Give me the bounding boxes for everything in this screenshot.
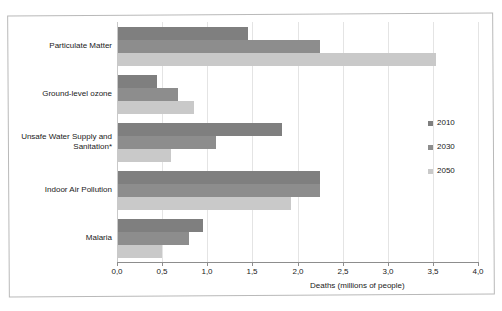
x-axis-tick — [343, 262, 344, 266]
x-axis-tick — [117, 262, 118, 266]
x-tick-label: 2,5 — [328, 267, 358, 276]
x-tick-label: 1,5 — [237, 267, 267, 276]
bar-2030-malaria — [117, 232, 189, 245]
x-tick-label: 3,5 — [418, 267, 448, 276]
bar-2030-ground-level-ozone — [117, 88, 178, 101]
legend-label: 2010 — [437, 118, 455, 127]
bar-2010-indoor-air-pollution — [117, 171, 320, 184]
plot-area — [117, 22, 478, 262]
x-axis-tick — [433, 262, 434, 266]
legend-swatch-icon — [428, 169, 433, 174]
bar-group — [117, 171, 478, 210]
category-label: Malaria — [4, 233, 112, 243]
category-label: Indoor Air Pollution — [4, 185, 112, 195]
legend-item-2050[interactable]: 2050 — [428, 166, 488, 190]
bar-2010-unsafe-water-supply-and-sanitation — [117, 123, 282, 136]
legend-label: 2050 — [437, 166, 455, 175]
category-labels: Particulate MatterGround-level ozoneUnsa… — [0, 22, 112, 262]
bar-2050-ground-level-ozone — [117, 101, 194, 114]
bar-2050-unsafe-water-supply-and-sanitation — [117, 149, 171, 162]
legend-label: 2030 — [437, 142, 455, 151]
bar-2010-particulate-matter — [117, 27, 248, 40]
bar-2050-indoor-air-pollution — [117, 197, 291, 210]
x-tick-label: 2,0 — [283, 267, 313, 276]
bar-2050-malaria — [117, 245, 162, 258]
chart-legend: 201020302050 — [428, 118, 488, 190]
bar-group — [117, 75, 478, 114]
legend-item-2010[interactable]: 2010 — [428, 118, 488, 142]
bar-group — [117, 27, 478, 66]
x-tick-label: 0,0 — [102, 267, 132, 276]
bar-2030-indoor-air-pollution — [117, 184, 320, 197]
bar-group — [117, 123, 478, 162]
bar-2030-unsafe-water-supply-and-sanitation — [117, 136, 216, 149]
legend-swatch-icon — [428, 145, 433, 150]
legend-swatch-icon — [428, 121, 433, 126]
x-axis-tick — [252, 262, 253, 266]
category-label: Ground-level ozone — [4, 89, 112, 99]
x-tick-label: 3,0 — [373, 267, 403, 276]
x-tick-label: 1,0 — [192, 267, 222, 276]
legend-item-2030[interactable]: 2030 — [428, 142, 488, 166]
x-axis-title: Deaths (millions of people) — [310, 281, 405, 290]
x-axis-tick — [388, 262, 389, 266]
bar-2010-malaria — [117, 219, 203, 232]
bar-group — [117, 219, 478, 258]
x-tick-label: 0,5 — [147, 267, 177, 276]
y-axis-line — [117, 22, 118, 263]
x-axis-tick — [207, 262, 208, 266]
bar-chart: Particulate MatterGround-level ozoneUnsa… — [0, 0, 502, 311]
x-axis-tick — [478, 262, 479, 266]
category-label: Unsafe Water Supply and Sanitation* — [4, 132, 112, 152]
x-tick-label: 4,0 — [463, 267, 493, 276]
category-label: Particulate Matter — [4, 41, 112, 51]
bar-2050-particulate-matter — [117, 53, 436, 66]
x-axis-tick — [298, 262, 299, 266]
bar-2010-ground-level-ozone — [117, 75, 157, 88]
bar-2030-particulate-matter — [117, 40, 320, 53]
x-axis-tick — [162, 262, 163, 266]
